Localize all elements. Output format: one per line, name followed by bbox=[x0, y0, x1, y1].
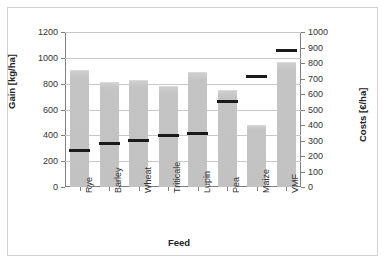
cost-marker bbox=[276, 49, 297, 52]
y-axis-left-title: Gain [kg/ha] bbox=[6, 54, 17, 109]
x-axis-tick bbox=[198, 187, 199, 191]
cost-marker bbox=[246, 75, 267, 78]
y-axis-left-tick bbox=[61, 58, 65, 59]
bar-chart: Gain [kg/ha] Costs [€/ha] Feed 020040060… bbox=[8, 8, 379, 257]
y-axis-right-tick-label: 700 bbox=[308, 74, 323, 84]
x-axis-title: Feed bbox=[168, 237, 190, 248]
cost-marker bbox=[217, 100, 238, 103]
y-axis-left-tick bbox=[61, 135, 65, 136]
y-axis-right-tick-label: 600 bbox=[308, 89, 323, 99]
y-axis-right-tick-label: 300 bbox=[308, 136, 323, 146]
y-axis-left-tick bbox=[61, 32, 65, 33]
y-axis-left-tick-label: 600 bbox=[43, 105, 58, 115]
x-axis-category-label: VMF bbox=[290, 174, 300, 193]
cost-marker bbox=[128, 139, 149, 142]
y-axis-right-tick-label: 100 bbox=[308, 167, 323, 177]
y-axis-right-tick bbox=[301, 94, 305, 95]
x-axis-category-label: Rye bbox=[84, 177, 94, 193]
y-axis-left-tick-label: 1200 bbox=[38, 27, 58, 37]
x-axis-category-label: Triticale bbox=[172, 162, 182, 193]
y-axis-right-tick-label: 500 bbox=[308, 105, 323, 115]
bar bbox=[70, 70, 89, 187]
x-axis-tick bbox=[257, 187, 258, 191]
y-axis-right-tick bbox=[301, 141, 305, 142]
x-axis-tick bbox=[80, 187, 81, 191]
y-axis-right-tick bbox=[301, 63, 305, 64]
y-axis-left-tick-label: 800 bbox=[43, 79, 58, 89]
y-axis-right-tick bbox=[301, 32, 305, 33]
x-axis-tick bbox=[286, 187, 287, 191]
plot-area bbox=[65, 32, 301, 187]
x-axis-tick bbox=[168, 187, 169, 191]
cost-marker bbox=[69, 149, 90, 152]
y-axis-right-tick-label: 0 bbox=[308, 182, 313, 192]
y-axis-left-tick bbox=[61, 110, 65, 111]
y-axis-left-tick bbox=[61, 187, 65, 188]
x-axis-tick bbox=[227, 187, 228, 191]
chart-frame: Gain [kg/ha] Costs [€/ha] Feed 020040060… bbox=[7, 7, 378, 256]
y-axis-right-tick-label: 900 bbox=[308, 43, 323, 53]
cost-marker bbox=[187, 132, 208, 135]
y-axis-right-tick bbox=[301, 48, 305, 49]
y-axis-left-tick-label: 400 bbox=[43, 130, 58, 140]
y-axis-left-tick-label: 200 bbox=[43, 156, 58, 166]
y-axis-right-tick-label: 200 bbox=[308, 151, 323, 161]
bar bbox=[218, 90, 237, 187]
x-axis-category-label: Barley bbox=[113, 167, 123, 193]
bar bbox=[188, 72, 207, 187]
y-axis-right-tick-label: 1000 bbox=[308, 27, 328, 37]
x-axis-category-label: Wheat bbox=[143, 167, 153, 193]
gridline bbox=[65, 32, 301, 33]
y-axis-right-tick bbox=[301, 172, 305, 173]
y-axis-right-tick-label: 800 bbox=[308, 58, 323, 68]
y-axis-right-title: Costs [€/ha] bbox=[357, 88, 368, 142]
x-axis-category-label: Pea bbox=[231, 177, 241, 193]
y-axis-right-tick bbox=[301, 125, 305, 126]
x-axis-category-label: Maize bbox=[261, 169, 271, 193]
y-axis-left-tick bbox=[61, 161, 65, 162]
y-axis-right-tick bbox=[301, 110, 305, 111]
y-axis-left-tick bbox=[61, 84, 65, 85]
cost-marker bbox=[158, 134, 179, 137]
x-axis-tick bbox=[109, 187, 110, 191]
y-axis-left-tick-label: 0 bbox=[53, 182, 58, 192]
y-axis-right-tick bbox=[301, 156, 305, 157]
y-axis-right-tick-label: 400 bbox=[308, 120, 323, 130]
x-axis-category-label: Lupin bbox=[202, 171, 212, 193]
gridline bbox=[65, 58, 301, 59]
bar bbox=[277, 62, 296, 187]
cost-marker bbox=[99, 142, 120, 145]
y-axis-left-tick-label: 1000 bbox=[38, 53, 58, 63]
y-axis-right-tick bbox=[301, 79, 305, 80]
y-axis-right-tick bbox=[301, 187, 305, 188]
x-axis-tick bbox=[139, 187, 140, 191]
